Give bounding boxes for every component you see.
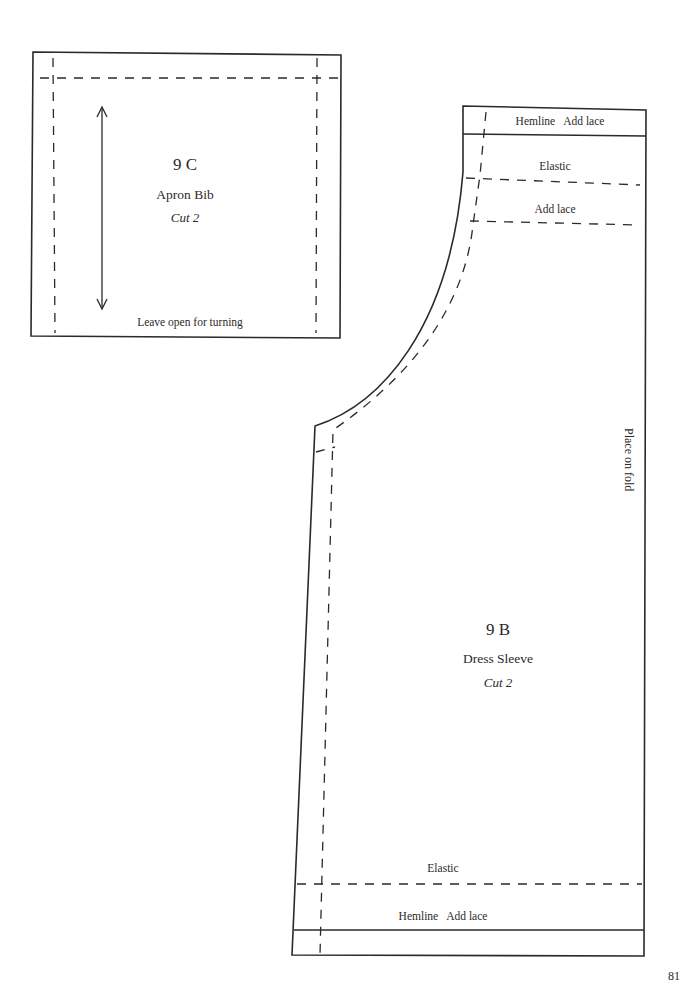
- sleeve-bottom-elastic-label: Elastic: [408, 862, 478, 874]
- page-number: 81: [662, 969, 686, 984]
- sleeve-top-elastic-label: Elastic: [520, 160, 590, 172]
- place-on-fold-label: Place on fold: [621, 428, 636, 491]
- apron-bib-name: Apron Bib: [135, 187, 235, 203]
- dress-sleeve-name: Dress Sleeve: [438, 651, 558, 667]
- sleeve-bottom-hem-label: Hemline Add lace: [378, 910, 508, 922]
- grainline-arrow: [97, 107, 107, 309]
- apron-bib-id: 9 C: [145, 155, 225, 175]
- apron-bib-note: Leave open for turning: [120, 316, 260, 328]
- sleeve-top-hem-label: Hemline Add lace: [495, 115, 625, 127]
- dress-sleeve-id: 9 B: [458, 620, 538, 640]
- pattern-drawing: [0, 0, 691, 986]
- dress-sleeve-cut: Cut 2: [458, 675, 538, 691]
- sleeve-top-lace-label: Add lace: [515, 203, 595, 215]
- apron-bib-cut: Cut 2: [145, 210, 225, 226]
- dress-sleeve-outline: [292, 106, 646, 956]
